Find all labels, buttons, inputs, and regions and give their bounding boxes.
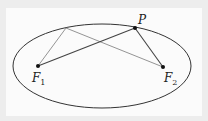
ellipse-diagram: P F1 F2 — [0, 0, 208, 121]
point-p — [133, 26, 137, 30]
label-f2: F2 — [163, 71, 177, 87]
focus-f2-point — [161, 65, 165, 69]
label-p: P — [137, 13, 147, 27]
label-f1: F1 — [31, 71, 45, 87]
focus-f1-point — [36, 64, 40, 68]
diagram-canvas: P F1 F2 — [0, 0, 208, 121]
